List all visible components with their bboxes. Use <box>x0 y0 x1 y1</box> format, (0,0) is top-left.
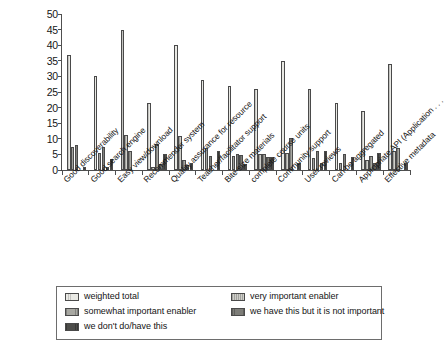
bar <box>289 138 293 170</box>
y-tick-label: 35 <box>47 56 58 67</box>
y-tick-label: 45 <box>47 24 58 35</box>
bar <box>217 151 221 170</box>
legend-entry-very-important-enabler: very important enabler <box>231 292 381 301</box>
legend-label: very important enabler <box>250 292 338 301</box>
y-tick-label: 20 <box>47 102 58 113</box>
bar <box>243 164 247 170</box>
bar <box>190 163 194 170</box>
legend-swatch-icon <box>65 323 79 331</box>
legend-row: weighted total very important enabler <box>65 292 373 307</box>
bar <box>110 159 114 170</box>
y-tick-label: 5 <box>52 149 58 160</box>
legend-label: somewhat important enabler <box>84 307 196 316</box>
y-tick-label: 15 <box>47 118 58 129</box>
legend-swatch-icon <box>65 308 79 316</box>
bar <box>396 148 400 170</box>
bar <box>209 156 213 170</box>
bar <box>297 163 301 170</box>
bar-group <box>174 14 194 170</box>
bar-group <box>121 14 141 170</box>
legend-entry-we-have-this-but-not-important: we have this but it is not important <box>231 307 381 316</box>
bar-group <box>281 14 301 170</box>
legend-swatch-icon <box>231 308 245 316</box>
legend-swatch-icon <box>231 293 245 301</box>
y-tick-label: 10 <box>47 134 58 145</box>
y-tick-label: 0 <box>52 165 58 176</box>
plot-area: 05101520253035404550 Good discoverabilit… <box>0 0 430 260</box>
y-tick-label: 25 <box>47 87 58 98</box>
y-tick-label: 40 <box>47 40 58 51</box>
bar <box>404 163 408 170</box>
legend-entry-somewhat-important-enabler: somewhat important enabler <box>65 307 231 316</box>
legend-entry-we-dont-do-have-this: we don't do/have this <box>65 322 231 331</box>
legend-row: we don't do/have this <box>65 322 373 337</box>
bar-group <box>388 14 408 170</box>
bar <box>163 154 167 170</box>
y-axis-tick-labels: 05101520253035404550 <box>34 14 58 170</box>
bar <box>343 154 347 170</box>
bar <box>75 145 79 170</box>
legend-label: we have this but it is not important <box>250 307 384 316</box>
bar <box>147 103 151 170</box>
bar-group <box>228 14 248 170</box>
bar <box>377 153 381 170</box>
bar-group <box>254 14 274 170</box>
bar-group <box>147 14 167 170</box>
bar-group <box>308 14 328 170</box>
bar <box>83 167 87 170</box>
legend-swatch-icon <box>65 293 79 301</box>
bar-group <box>94 14 114 170</box>
bar-group <box>361 14 381 170</box>
legend-label: weighted total <box>84 292 139 301</box>
y-tick-label: 50 <box>47 9 58 20</box>
bar <box>128 151 132 170</box>
x-axis-category-labels: Good discoverabilityGood search engineEa… <box>0 172 430 260</box>
chart-legend: weighted total very important enabler so… <box>56 286 382 340</box>
legend-entry-weighted-total: weighted total <box>65 292 231 301</box>
bar <box>351 157 355 170</box>
legend-label: we don't do/have this <box>84 322 167 331</box>
bar <box>270 157 274 170</box>
bar <box>335 103 339 170</box>
bar-group <box>201 14 221 170</box>
bar <box>324 151 328 170</box>
y-tick-label: 30 <box>47 71 58 82</box>
bar-groups <box>62 14 410 170</box>
legend-row: somewhat important enabler we have this … <box>65 307 373 322</box>
bar-group <box>67 14 87 170</box>
bar-group <box>335 14 355 170</box>
